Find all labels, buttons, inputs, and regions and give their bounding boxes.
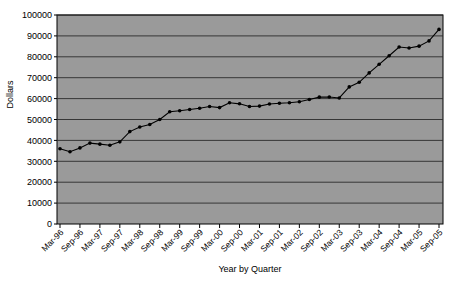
data-point bbox=[68, 150, 72, 154]
y-axis: 0100002000030000400005000060000700008000… bbox=[22, 10, 57, 229]
y-axis-title: Dollars bbox=[5, 80, 15, 109]
data-point bbox=[188, 108, 192, 112]
data-point bbox=[118, 140, 122, 144]
y-axis-tick-label: 90000 bbox=[27, 31, 52, 41]
data-point bbox=[407, 46, 411, 50]
y-axis-tick-label: 60000 bbox=[27, 94, 52, 104]
data-point bbox=[108, 143, 112, 147]
data-point bbox=[427, 39, 431, 43]
data-point bbox=[298, 100, 302, 104]
data-point bbox=[168, 110, 172, 114]
data-point bbox=[218, 106, 222, 110]
data-point bbox=[308, 98, 312, 102]
y-axis-tick-label: 70000 bbox=[27, 73, 52, 83]
y-axis-tick-label: 50000 bbox=[27, 115, 52, 125]
data-point bbox=[178, 109, 182, 113]
data-point bbox=[327, 95, 331, 99]
chart-container: 0100002000030000400005000060000700008000… bbox=[0, 0, 454, 293]
data-point bbox=[268, 102, 272, 106]
data-point bbox=[198, 106, 202, 110]
data-point bbox=[347, 85, 351, 89]
data-point bbox=[437, 28, 441, 32]
y-axis-tick-label: 100000 bbox=[22, 10, 52, 20]
data-point bbox=[138, 125, 142, 129]
data-point bbox=[128, 130, 132, 134]
data-point bbox=[367, 71, 371, 75]
data-point bbox=[208, 105, 212, 109]
data-point bbox=[248, 105, 252, 109]
data-point bbox=[417, 44, 421, 48]
data-point bbox=[158, 118, 162, 122]
data-point bbox=[58, 147, 62, 151]
line-chart: 0100002000030000400005000060000700008000… bbox=[0, 0, 454, 293]
data-point bbox=[98, 142, 102, 146]
x-axis: Mar-96Sep-96Mar-97Sep-97Mar-98Sep-98Mar-… bbox=[39, 224, 444, 254]
data-point bbox=[337, 96, 341, 100]
data-point bbox=[397, 45, 401, 49]
data-point bbox=[238, 102, 242, 106]
data-point bbox=[228, 101, 232, 105]
data-point bbox=[278, 101, 282, 105]
data-point bbox=[78, 146, 82, 150]
y-axis-tick-label: 20000 bbox=[27, 177, 52, 187]
y-axis-tick-label: 0 bbox=[47, 219, 52, 229]
y-axis-tick-label: 10000 bbox=[27, 198, 52, 208]
x-axis-tick-label: Sep-05 bbox=[418, 227, 445, 254]
data-point bbox=[377, 63, 381, 67]
data-point bbox=[387, 54, 391, 58]
data-point bbox=[258, 104, 262, 108]
y-axis-tick-label: 30000 bbox=[27, 157, 52, 167]
y-axis-tick-label: 80000 bbox=[27, 52, 52, 62]
data-point bbox=[288, 101, 292, 105]
data-point bbox=[357, 80, 361, 84]
x-axis-title: Year by Quarter bbox=[218, 264, 281, 274]
data-point bbox=[318, 95, 322, 99]
data-point bbox=[148, 123, 152, 127]
y-axis-tick-label: 40000 bbox=[27, 136, 52, 146]
data-point bbox=[88, 141, 92, 145]
